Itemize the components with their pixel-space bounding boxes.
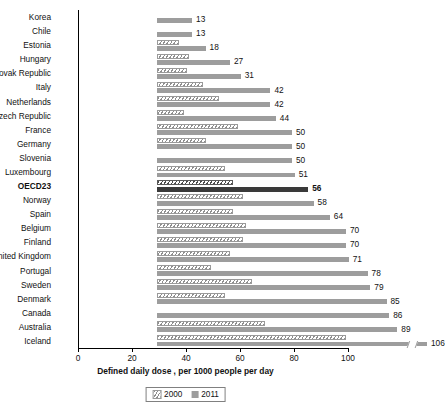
- value-label: 18: [210, 42, 219, 52]
- bar-2011: [157, 327, 397, 332]
- value-label: 70: [350, 225, 359, 235]
- bar-group: 71: [157, 249, 348, 263]
- chart-row: Belgium70: [78, 221, 348, 235]
- x-tick: [186, 348, 187, 352]
- category-label-oecd23: OECD23: [18, 179, 51, 193]
- value-label: 89: [401, 324, 410, 334]
- bar-2011: [157, 285, 370, 290]
- chart-row: Netherlands42: [78, 95, 348, 109]
- value-label: 58: [318, 197, 327, 207]
- value-label: 51: [299, 169, 308, 179]
- value-label: 50: [296, 141, 305, 151]
- category-label-netherlands: Netherlands: [6, 95, 51, 109]
- bar-group: 13: [157, 10, 348, 24]
- bar-group: 70: [157, 235, 348, 249]
- value-label: 64: [334, 211, 343, 221]
- value-label: 56: [312, 183, 321, 193]
- bar-2000: [157, 110, 184, 115]
- bar-2000: [157, 96, 219, 101]
- bar-2000: [157, 223, 246, 228]
- bar-group: 85: [157, 292, 348, 306]
- bar-group: 106: [157, 334, 348, 348]
- category-label-australia: Australia: [19, 320, 51, 334]
- category-label-czech-republic: Czech Republic: [0, 109, 51, 123]
- bar-2011: [157, 116, 276, 121]
- category-label-iceland: Iceland: [24, 334, 51, 348]
- bar-group: 50: [157, 123, 348, 137]
- category-label-hungary: Hungary: [20, 52, 51, 66]
- legend-item-2011: 2011: [191, 390, 219, 399]
- x-tick-label: 0: [76, 353, 81, 363]
- x-axis-ticks: 020406080100: [0, 348, 371, 368]
- plot-area: Korea13Chile13Estonia18Hungary27Slovak R…: [78, 10, 348, 348]
- bar-group: 31: [157, 66, 348, 80]
- bar-2011: [157, 144, 292, 149]
- value-label: 79: [374, 282, 383, 292]
- chart-row: Canada86: [78, 306, 348, 320]
- value-label: 13: [196, 28, 205, 38]
- category-label-portugal: Portugal: [20, 264, 51, 278]
- bar-2011: [157, 229, 346, 234]
- chart-row: Norway58: [78, 193, 348, 207]
- category-label-denmark: Denmark: [17, 292, 51, 306]
- x-tick-label: 100: [341, 353, 355, 363]
- category-label-slovenia: Slovenia: [19, 151, 51, 165]
- category-label-slovak-republic: Slovak Republic: [0, 66, 51, 80]
- bar-2011: [157, 215, 330, 220]
- chart-row: Chile13: [78, 24, 348, 38]
- bar-2000: [157, 237, 243, 242]
- bar-group: 44: [157, 109, 348, 123]
- bar-group: 86: [157, 306, 348, 320]
- chart-row: Hungary27: [78, 52, 348, 66]
- bar-2011: [157, 271, 368, 276]
- category-label-belgium: Belgium: [21, 221, 51, 235]
- bar-2000: [157, 138, 206, 143]
- legend-label-2000: 2000: [164, 390, 182, 399]
- chart-row: Italy42: [78, 80, 348, 94]
- solid-swatch: [191, 391, 198, 398]
- category-label-finland: Finland: [24, 235, 51, 249]
- bar-2011: [157, 60, 230, 65]
- legend-label-2011: 2011: [201, 390, 219, 399]
- chart-row: Iceland106: [78, 334, 348, 348]
- bar-2000: [157, 54, 189, 59]
- category-label-germany: Germany: [17, 137, 51, 151]
- bar-group: 27: [157, 52, 348, 66]
- category-label-norway: Norway: [23, 193, 51, 207]
- bar-group: 58: [157, 193, 348, 207]
- chart-row: Spain64: [78, 207, 348, 221]
- bar-group: 50: [157, 137, 348, 151]
- chart-row: Denmark85: [78, 292, 348, 306]
- x-tick-label: 60: [235, 353, 244, 363]
- x-tick: [240, 348, 241, 352]
- chart-row: Australia89: [78, 320, 348, 334]
- chart-legend: 2000 2011: [145, 387, 226, 402]
- bar-group: 50: [157, 151, 348, 165]
- category-label-chile: Chile: [32, 24, 51, 38]
- value-label: 70: [350, 239, 359, 249]
- bar-2011: [157, 130, 292, 135]
- chart-row: Czech Republic44: [78, 109, 348, 123]
- value-label: 13: [196, 14, 205, 24]
- chart-row: Sweden79: [78, 278, 348, 292]
- legend-item-2000: 2000: [152, 390, 182, 399]
- bar-2011: [157, 18, 192, 23]
- x-tick: [294, 348, 295, 352]
- category-label-canada: Canada: [22, 306, 51, 320]
- chart-row: Korea13: [78, 10, 348, 24]
- bar-2000: [157, 124, 238, 129]
- category-label-italy: Italy: [36, 80, 51, 94]
- chart-row: Portugal78: [78, 264, 348, 278]
- bar-2000: [157, 265, 211, 270]
- bar-group: 79: [157, 278, 348, 292]
- bar-group: 89: [157, 320, 348, 334]
- category-label-united-kingdom: United Kingdom: [0, 249, 51, 263]
- bar-group: 42: [157, 95, 348, 109]
- chart-row: United Kingdom71: [78, 249, 348, 263]
- bar-2011: [157, 299, 387, 304]
- x-tick-label: 40: [181, 353, 190, 363]
- bar-2011: [157, 88, 270, 93]
- bar-2011: [157, 187, 308, 192]
- value-label: 50: [296, 127, 305, 137]
